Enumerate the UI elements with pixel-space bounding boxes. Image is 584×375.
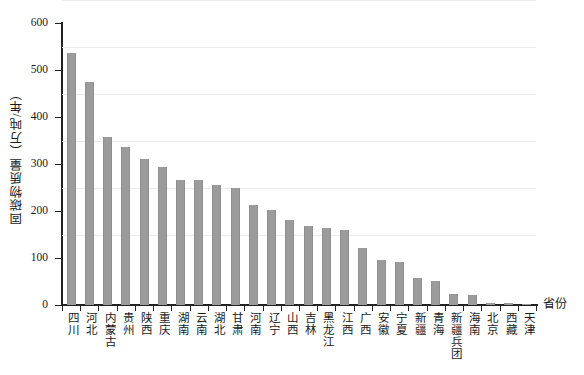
y-axis-tick (55, 258, 62, 259)
x-axis-tick-label: 宁夏 (392, 312, 406, 336)
y-axis-tick (55, 117, 62, 118)
x-axis-tick-label: 云南 (192, 312, 206, 336)
x-axis-tick (208, 306, 209, 311)
x-axis-tick (408, 306, 409, 311)
x-axis-tick (317, 306, 318, 311)
bar (304, 226, 313, 305)
y-axis-tick (55, 23, 62, 24)
y-axis-tick (55, 305, 62, 306)
bar (140, 159, 149, 305)
x-axis-tick-label: 海南 (465, 312, 479, 336)
x-axis-tick-label: 山西 (283, 312, 297, 336)
bar (158, 167, 167, 305)
y-axis-title-text: 固碳物质量（万吨/年） (11, 86, 24, 225)
bar (231, 188, 240, 305)
bar (121, 147, 130, 305)
y-axis-tick-label: 100 (14, 252, 48, 264)
y-axis-tick-label: 0 (14, 299, 48, 311)
y-axis-tick-label: 500 (14, 64, 48, 76)
x-axis-tick-label: 安徽 (374, 312, 388, 336)
x-axis-tick-label: 河北 (82, 312, 96, 336)
x-axis-tick (299, 306, 300, 311)
y-axis-tick (55, 211, 62, 212)
bar (377, 260, 386, 305)
bar (267, 210, 276, 305)
x-axis-title: 省份 (543, 298, 567, 310)
x-axis-tick (518, 306, 519, 311)
bar (468, 295, 477, 305)
bar (212, 185, 221, 305)
x-axis-tick-label: 青海 (429, 312, 443, 336)
x-axis-tick-label: 辽宁 (265, 312, 279, 336)
x-axis-tick (427, 306, 428, 311)
y-axis-tick (55, 70, 62, 71)
x-axis-tick (117, 306, 118, 311)
x-axis-tick (281, 306, 282, 311)
x-axis-tick-label: 河南 (246, 312, 260, 336)
x-axis-tick (536, 306, 537, 311)
bar-chart: 固碳物质量（万吨/年） 0100200300400500600 四川河北内蒙古贵… (0, 0, 584, 375)
x-axis-tick-label: 重庆 (155, 312, 169, 336)
x-axis-tick-label: 陕西 (137, 312, 151, 336)
y-axis-tick (55, 164, 62, 165)
x-axis-tick-label: 四川 (64, 312, 78, 336)
x-axis-tick (80, 306, 81, 311)
bar (431, 281, 440, 305)
y-axis-tick-label: 200 (14, 205, 48, 217)
bar (358, 248, 367, 305)
bar (285, 220, 294, 305)
x-axis-tick (500, 306, 501, 311)
x-axis-tick-label: 甘肃 (228, 312, 242, 336)
x-axis-tick-label: 湖北 (210, 312, 224, 336)
bar (85, 82, 94, 305)
x-axis-tick (244, 306, 245, 311)
x-axis-tick-label: 北京 (483, 312, 497, 336)
x-axis-tick-label: 新疆兵团 (447, 312, 461, 360)
x-axis-tick (335, 306, 336, 311)
gridline (62, 0, 536, 1)
x-axis-tick-label: 贵州 (119, 312, 133, 336)
x-axis-tick (390, 306, 391, 311)
bar (194, 180, 203, 305)
x-axis-tick (481, 306, 482, 311)
x-axis-tick-label: 广西 (356, 312, 370, 336)
bar (395, 262, 404, 305)
x-axis-tick (98, 306, 99, 311)
bar (103, 137, 112, 305)
x-axis-tick (190, 306, 191, 311)
y-axis-tick-label: 600 (14, 17, 48, 29)
x-axis-tick-label: 湖南 (174, 312, 188, 336)
x-axis-tick-label: 新疆 (411, 312, 425, 336)
bar (176, 180, 185, 305)
x-axis-tick-label: 西藏 (502, 312, 516, 336)
x-axis-tick (445, 306, 446, 311)
x-axis-tick (135, 306, 136, 311)
bar (504, 303, 513, 305)
x-axis-tick (153, 306, 154, 311)
x-axis-tick (171, 306, 172, 311)
y-axis-tick-label: 300 (14, 158, 48, 170)
y-axis-tick-label: 400 (14, 111, 48, 123)
x-axis-tick (263, 306, 264, 311)
x-axis-tick (372, 306, 373, 311)
x-axis-tick (62, 306, 63, 311)
bar (249, 205, 258, 305)
x-axis-tick-label: 内蒙古 (101, 312, 115, 348)
bar (67, 53, 76, 305)
x-axis-tick-label: 江西 (338, 312, 352, 336)
plot-area (62, 23, 536, 305)
x-axis-tick-label: 天津 (520, 312, 534, 336)
x-axis-tick (354, 306, 355, 311)
bar (522, 304, 531, 305)
bar (322, 228, 331, 305)
x-axis-tick-label: 吉林 (301, 312, 315, 336)
bar (413, 278, 422, 305)
x-axis-tick-label: 黑龙江 (319, 312, 333, 348)
bar (449, 294, 458, 305)
x-axis-tick (463, 306, 464, 311)
x-axis-tick (226, 306, 227, 311)
bar (340, 230, 349, 305)
bar (486, 303, 495, 305)
